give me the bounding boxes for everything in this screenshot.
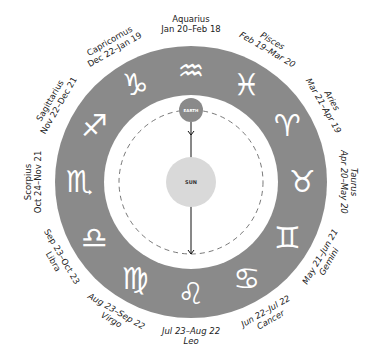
sun-label: SUN	[185, 179, 197, 185]
zodiac-diagram: SUN EARTH ♒AquariusJan 20–Feb 18♓PiscesF…	[0, 0, 377, 360]
sign-name: Taurus	[349, 168, 359, 197]
sign-name: Leo	[183, 336, 198, 346]
sign-dates: Jan 20–Feb 18	[160, 24, 220, 34]
sagittarius-symbol-icon: ♐	[81, 108, 108, 143]
pisces-symbol-icon: ♓	[233, 67, 260, 102]
capricornus-symbol-icon: ♑	[122, 67, 149, 102]
sign-dates: Apr 20–May 20	[339, 149, 349, 214]
scorpius-symbol-icon: ♏	[66, 164, 93, 199]
sign-name: Scorpius	[23, 163, 33, 200]
aries-symbol-icon: ♈	[274, 108, 301, 143]
cancer-symbol-icon: ♋	[233, 261, 260, 296]
virgo-symbol-icon: ♍	[122, 261, 149, 296]
taurus-symbol-icon: ♉	[289, 164, 316, 199]
aquarius-symbol-icon: ♒	[178, 53, 205, 88]
earth-label: EARTH	[184, 108, 199, 113]
sign-dates: Jul 23–Aug 22	[160, 326, 220, 336]
gemini-symbol-icon: ♊	[274, 220, 301, 255]
libra-symbol-icon: ♎	[81, 220, 108, 255]
sign-dates: Oct 24–Nov 21	[33, 151, 43, 214]
zodiac-wheel: SUN EARTH ♒AquariusJan 20–Feb 18♓PiscesF…	[0, 0, 377, 360]
sign-name: Aquarius	[172, 14, 210, 24]
sign-label-leo: Jul 23–Aug 22Leo	[160, 326, 220, 346]
sign-label-scorpius: ScorpiusOct 24–Nov 21	[23, 151, 43, 214]
sign-label-aquarius: AquariusJan 20–Feb 18	[160, 14, 220, 34]
leo-symbol-icon: ♌	[178, 276, 205, 311]
sign-label-taurus: TaurusApr 20–May 20	[339, 149, 359, 214]
